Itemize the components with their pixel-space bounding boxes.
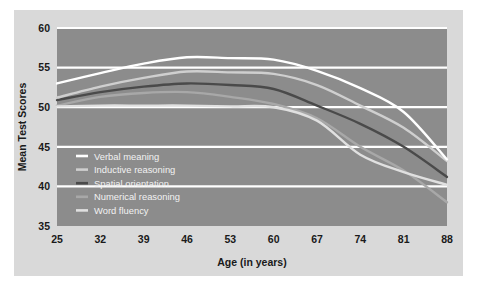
x-tick-label: 25 (51, 233, 63, 245)
legend-label: Word fluency (94, 205, 149, 216)
y-axis-tick-labels: 354045505560 (38, 22, 50, 232)
x-tick-label: 74 (354, 233, 366, 245)
chart-figure: 354045505560 25323946536067748188 Verbal… (0, 0, 477, 292)
y-tick-label: 50 (38, 101, 50, 113)
chart-card: 354045505560 25323946536067748188 Verbal… (14, 10, 463, 276)
legend-label: Spatial orientation (94, 178, 169, 189)
x-tick-label: 53 (224, 233, 236, 245)
line-chart: 354045505560 25323946536067748188 Verbal… (14, 10, 463, 276)
x-tick-label: 32 (94, 233, 106, 245)
y-tick-label: 55 (38, 61, 50, 73)
y-tick-label: 40 (38, 180, 50, 192)
y-tick-label: 60 (38, 22, 50, 34)
x-tick-label: 67 (311, 233, 323, 245)
legend-label: Verbal meaning (94, 151, 159, 162)
x-axis-title: Age (in years) (217, 256, 286, 268)
y-tick-label: 35 (38, 220, 50, 232)
y-axis-title: Mean Test Scores (16, 83, 28, 172)
legend-label: Numerical reasoning (94, 191, 180, 202)
legend-label: Inductive reasoning (94, 164, 175, 175)
x-tick-label: 81 (398, 233, 410, 245)
x-tick-label: 39 (138, 233, 150, 245)
x-tick-label: 46 (181, 233, 193, 245)
x-tick-label: 88 (441, 233, 453, 245)
x-tick-label: 60 (268, 233, 280, 245)
y-tick-label: 45 (38, 141, 50, 153)
x-axis-tick-labels: 25323946536067748188 (51, 233, 453, 245)
